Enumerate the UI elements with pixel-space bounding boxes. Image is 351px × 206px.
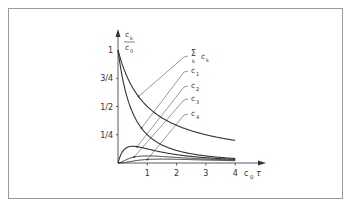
y-axis-label-numerator-sub: k [130,35,133,41]
legend-label-c1: c [191,66,195,75]
leader-line-tick [184,56,188,57]
y-tick-label: 1/4 [100,131,113,140]
legend-label-c3-sub: 3 [196,99,199,105]
legend-label-c1-sub: 1 [196,71,199,77]
leader-line-tick [184,86,188,87]
legend-label-c4: c [191,109,195,118]
legend-label-sum-c-sub: k [206,57,209,63]
legend-label-sum-c: c [201,52,205,61]
x-tick-label: 4 [233,169,238,178]
x-tick-label: 3 [203,169,208,178]
legend-label-sum-index: k [192,58,195,64]
y-tick-label: 1 [108,46,113,55]
x-axis-label-sub: 0 [250,174,254,180]
leader-line-tick [184,114,188,115]
y-axis-label-denominator: c [125,43,129,52]
y-axis-label-denominator-sub: 0 [130,48,133,54]
leader-line [141,72,184,128]
legend-label-sum: Σ [191,49,196,58]
curves [118,50,235,163]
leader-line-tick [184,71,188,72]
x-axis-label-tau: τ [256,169,261,178]
leader-anchor-dot [133,156,135,158]
labels: 12341/41/23/41ckc0c0τΣkckc1c2c3c4 [100,30,261,180]
legend-label-c2-sub: 2 [196,86,199,92]
legend-label-c4-sub: 4 [196,114,199,120]
leader-anchor-dot [136,146,138,148]
leader-anchor-dot [138,96,140,98]
leader-anchor-dot [146,158,148,160]
leader-anchor-dot [140,127,142,129]
x-axis-label-main: c [244,169,248,178]
series-line-c1 [118,50,235,158]
y-tick-label: 1/2 [100,103,113,112]
x-axis-arrow-icon [258,161,266,166]
y-axis-label-numerator: c [125,30,129,39]
x-tick-label: 1 [145,169,150,178]
leader-line [137,87,184,147]
y-axis-arrow-icon [116,29,121,37]
leader-line-tick [184,99,188,100]
y-tick-label: 3/4 [100,74,113,83]
legend-label-c2: c [191,81,195,90]
chart: 12341/41/23/41ckc0c0τΣkckc1c2c3c4 [0,0,351,206]
x-tick-label: 2 [174,169,179,178]
legend-label-c3: c [191,94,195,103]
leader-line [139,57,184,97]
